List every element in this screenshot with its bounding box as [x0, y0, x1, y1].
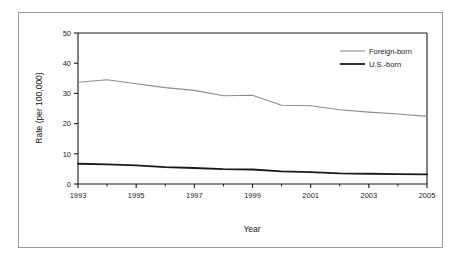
x-tick-label: 2001 [302, 191, 319, 200]
series-line-foreign-born [78, 80, 427, 117]
y-axis-tick-labels: 01020304050 [63, 29, 71, 189]
x-tick-label: 2005 [419, 191, 436, 200]
x-axis-title: Year [243, 224, 260, 234]
y-tick-label: 0 [67, 180, 71, 189]
x-tick-label: 1999 [244, 191, 261, 200]
x-axis-ticks [78, 184, 427, 188]
chart-canvas: 01020304050 1993199519971999200120032005… [0, 0, 460, 262]
y-tick-label: 10 [63, 150, 71, 159]
y-axis-ticks [74, 33, 78, 184]
x-tick-label: 2003 [360, 191, 377, 200]
x-tick-label: 1997 [186, 191, 203, 200]
chart-legend: Foreign-born U.S.-born [340, 47, 412, 69]
series-line-u-s-born [78, 164, 427, 175]
x-axis-tick-labels: 1993199519971999200120032005 [70, 191, 436, 200]
data-series-group [78, 80, 427, 175]
y-tick-label: 50 [63, 29, 71, 38]
y-tick-label: 40 [63, 59, 71, 68]
axis-lines [78, 33, 427, 184]
x-tick-label: 1993 [70, 191, 87, 200]
x-tick-label: 1995 [128, 191, 145, 200]
figure-container: 01020304050 1993199519971999200120032005… [0, 0, 460, 262]
y-tick-label: 30 [63, 89, 71, 98]
legend-label-foreign-born: Foreign-born [369, 47, 412, 56]
y-tick-label: 20 [63, 119, 71, 128]
y-axis-title: Rate (per 100,000) [34, 72, 44, 144]
legend-label-us-born: U.S.-born [369, 60, 401, 69]
